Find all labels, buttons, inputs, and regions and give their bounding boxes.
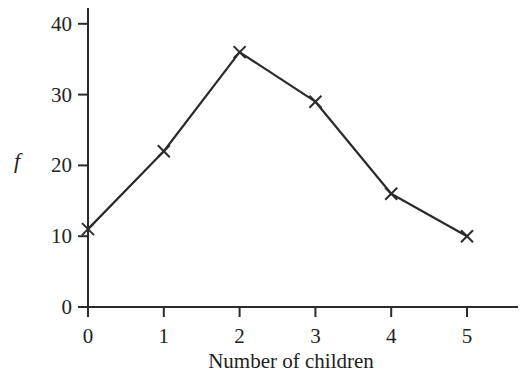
- axes: [78, 8, 518, 317]
- frequency-line-chart: 010203040 012345 f Number of children: [0, 0, 521, 378]
- x-marker-icon: [461, 230, 473, 242]
- y-axis-ticks: 010203040: [51, 12, 88, 319]
- x-axis-ticks: 012345: [83, 307, 473, 348]
- y-tick-label: 10: [51, 224, 72, 248]
- x-marker-icon: [158, 145, 170, 157]
- y-tick-label: 30: [51, 83, 72, 107]
- y-tick-label: 20: [51, 153, 72, 177]
- data-line: [88, 52, 467, 236]
- x-marker-icon: [385, 188, 397, 200]
- x-tick-label: 2: [234, 324, 245, 348]
- y-tick-label: 0: [62, 295, 73, 319]
- data-markers: [82, 46, 473, 242]
- x-tick-label: 1: [159, 324, 170, 348]
- y-tick-label: 40: [51, 12, 72, 36]
- y-axis-label: f: [14, 148, 23, 173]
- x-tick-label: 3: [310, 324, 321, 348]
- x-marker-icon: [309, 96, 321, 108]
- x-tick-label: 0: [83, 324, 94, 348]
- x-marker-icon: [234, 46, 246, 58]
- x-tick-label: 5: [462, 324, 473, 348]
- x-tick-label: 4: [386, 324, 397, 348]
- x-axis-label: Number of children: [208, 349, 374, 373]
